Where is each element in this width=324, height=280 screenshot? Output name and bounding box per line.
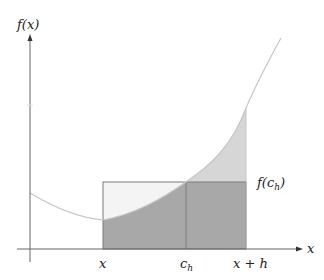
mean-value-integral-diagram: f(x) x x ch x + h f(ch) [0,0,324,280]
area-rect-right [186,182,246,249]
x-tick-label-c-h: ch [180,256,193,273]
f-c-h-label: f(ch) [256,175,285,192]
x-axis-arrow-icon [296,247,303,252]
x-axis-label: x [307,241,315,256]
excess-area-region [186,108,246,182]
y-axis-arrow-icon [28,34,33,41]
x-tick-label-x-plus-h: x + h [233,256,268,271]
x-tick-label-x: x [99,256,107,271]
y-axis-label: f(x) [16,17,39,32]
